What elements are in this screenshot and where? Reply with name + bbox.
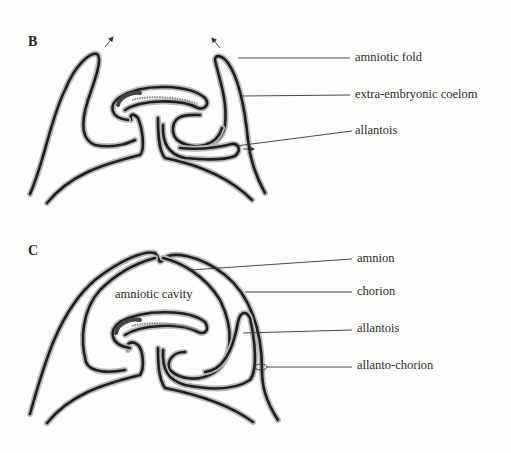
panel-label-b: B (28, 34, 37, 50)
label-amniotic-cavity: amniotic cavity (115, 287, 192, 302)
label-allantois-b: allantois (355, 123, 397, 138)
embryo-diagram (0, 0, 511, 453)
label-extra-embryonic-coelom: extra-embryonic coelom (355, 87, 478, 102)
label-chorion: chorion (357, 284, 395, 299)
panel-b-drawing (30, 37, 352, 203)
label-amnion: amnion (357, 251, 395, 266)
panel-label-c: C (28, 243, 38, 259)
label-amniotic-fold: amniotic fold (355, 50, 422, 65)
panel-c-drawing (30, 252, 352, 423)
label-allantois-c: allantois (357, 321, 399, 336)
label-allanto-chorion: allanto-chorion (357, 358, 433, 373)
